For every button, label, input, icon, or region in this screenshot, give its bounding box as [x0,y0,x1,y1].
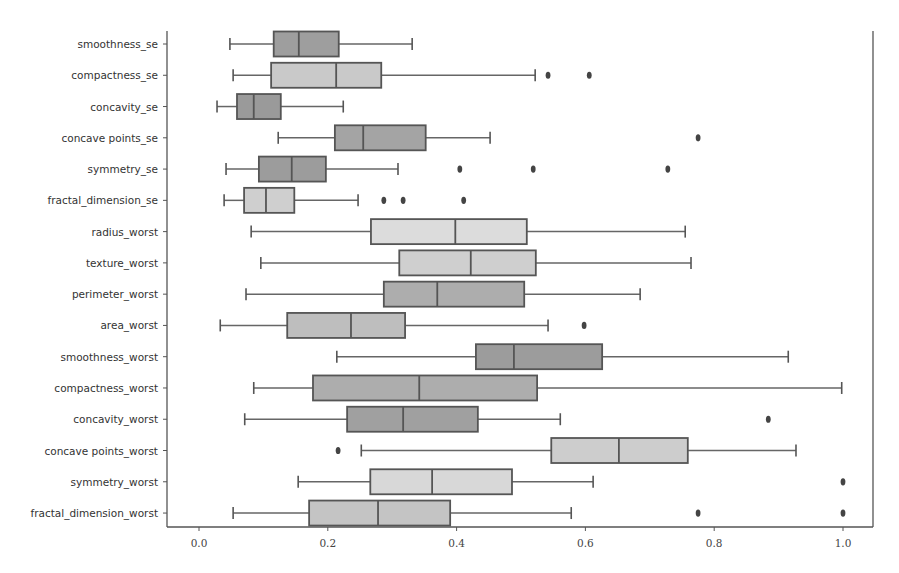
box-radius-worst [251,219,685,244]
outlier-point [665,165,670,172]
iqr-box [384,282,524,307]
x-tick-label: 0.8 [706,537,723,549]
box-perimeter-worst [246,282,640,307]
box-area-worst [220,313,586,338]
box-fractal-dimension-worst [233,501,845,526]
box-fractal-dimension-se [224,188,466,213]
iqr-box [476,344,602,369]
box-texture-worst [261,250,691,275]
y-tick-label: symmetry_worst [71,476,158,489]
iqr-box [274,32,339,57]
x-tick-label: 1.0 [835,537,852,549]
x-axis: 0.00.20.40.60.81.0 [191,527,852,549]
y-tick-label: smoothness_worst [60,351,158,364]
iqr-box [237,94,281,119]
outlier-point [336,447,341,454]
x-tick-label: 0.6 [577,537,594,549]
outlier-point [587,72,592,79]
iqr-box [399,250,536,275]
iqr-box [370,469,512,494]
box-compactness-worst [254,375,842,400]
y-tick-label: concavity_se [90,101,158,114]
y-tick-label: concavity_worst [73,413,158,426]
box-symmetry-worst [298,469,845,494]
y-tick-label: area_worst [100,319,158,332]
y-tick-label: smoothness_se [77,38,158,51]
x-tick-label: 0.2 [319,537,336,549]
y-tick-label: fractal_dimension_worst [31,507,159,520]
outlier-point [766,416,771,423]
box-smoothness-worst [337,344,788,369]
y-tick-label: fractal_dimension_se [47,194,158,207]
y-tick-label: radius_worst [91,226,158,239]
outlier-point [457,165,462,172]
y-tick-label: compactness_worst [54,382,158,395]
outlier-point [461,197,466,204]
iqr-box [309,501,450,526]
y-axis: smoothness_secompactness_seconcavity_sec… [31,38,168,520]
outlier-point [531,165,536,172]
box-concave-points-se [278,125,700,150]
outlier-point [841,478,846,485]
box-concavity-se [217,94,343,119]
y-tick-label: compactness_se [71,69,158,82]
iqr-box [244,188,294,213]
y-tick-label: concave points_worst [45,445,159,458]
boxplot-chart: smoothness_secompactness_seconcavity_sec… [0,0,899,573]
iqr-box [371,219,527,244]
box-concavity-worst [245,407,771,432]
iqr-box [287,313,405,338]
iqr-box [271,63,381,88]
y-tick-label: symmetry_se [88,163,158,176]
y-tick-label: perimeter_worst [72,288,158,301]
outlier-point [841,509,846,516]
x-tick-label: 0.0 [191,537,208,549]
boxes-layer [217,32,845,526]
y-tick-label: concave points_se [62,132,159,145]
box-symmetry-se [226,157,670,182]
outlier-point [696,134,701,141]
box-smoothness-se [230,32,412,57]
iqr-box [313,375,537,400]
box-concave-points-worst [336,438,796,463]
outlier-point [546,72,551,79]
x-tick-label: 0.4 [448,537,465,549]
outlier-point [582,322,587,329]
outlier-point [381,197,386,204]
outlier-point [696,509,701,516]
iqr-box [347,407,478,432]
iqr-box [335,125,426,150]
y-tick-label: texture_worst [86,257,158,270]
box-compactness-se [233,63,592,88]
outlier-point [401,197,406,204]
